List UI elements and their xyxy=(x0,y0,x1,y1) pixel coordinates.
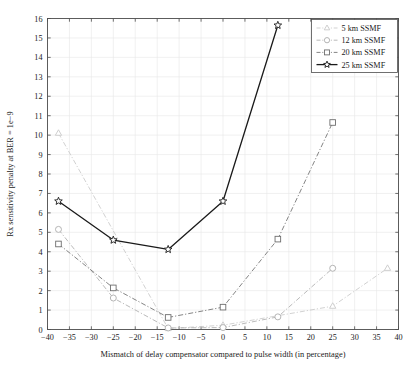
series-12-km-ssmf xyxy=(55,226,335,331)
data-point-marker-square xyxy=(220,304,226,310)
data-point-marker-circle xyxy=(275,314,281,320)
series-20-km-ssmf xyxy=(56,120,336,321)
x-tick-label: −30 xyxy=(85,333,98,342)
y-tick-label: 15 xyxy=(34,34,42,43)
chart-figure: −40−35−30−25−20−15−10−50510152025303540 … xyxy=(0,0,418,378)
x-tick-label: 35 xyxy=(372,333,380,342)
data-point-marker-square xyxy=(330,120,336,126)
chart-legend: 5 km SSMF12 km SSMF20 km SSMF25 km SSMF xyxy=(312,20,398,73)
legend-label: 25 km SSMF xyxy=(342,61,386,70)
data-point-marker-star xyxy=(110,236,118,243)
legend-label: 20 km SSMF xyxy=(342,48,386,57)
axis-titles: Mismatch of delay compensator compared t… xyxy=(6,111,346,359)
legend-label: 5 km SSMF xyxy=(342,24,382,33)
data-point-marker-circle xyxy=(220,325,226,331)
data-point-marker-circle xyxy=(330,265,336,271)
legend-label: 12 km SSMF xyxy=(342,36,386,45)
x-tick-label: 40 xyxy=(394,333,402,342)
x-axis-title: Mismatch of delay compensator compared t… xyxy=(101,350,346,359)
x-tick-labels: −40−35−30−25−20−15−10−50510152025303540 xyxy=(41,333,403,342)
data-point-marker-circle xyxy=(165,325,171,331)
series-25-km-ssmf xyxy=(55,21,282,252)
data-point-marker-triangle xyxy=(330,303,336,309)
x-tick-label: 5 xyxy=(243,333,247,342)
y-tick-label: 13 xyxy=(34,73,42,82)
x-tick-label: 30 xyxy=(351,333,359,342)
data-point-marker-star xyxy=(274,21,282,28)
x-tick-label: −5 xyxy=(197,333,206,342)
y-tick-label: 14 xyxy=(34,53,42,62)
x-tick-label: −15 xyxy=(151,333,164,342)
x-tick-label: −40 xyxy=(41,333,54,342)
x-tick-label: 15 xyxy=(285,333,293,342)
x-tick-label: −20 xyxy=(129,333,142,342)
x-tick-label: −10 xyxy=(173,333,186,342)
data-point-marker-square xyxy=(56,241,62,247)
y-tick-label: 4 xyxy=(38,248,42,257)
y-tick-label: 11 xyxy=(35,112,43,121)
data-point-marker-circle xyxy=(110,295,116,301)
y-tick-label: 16 xyxy=(34,15,42,24)
series-line xyxy=(58,122,332,317)
y-tick-label: 8 xyxy=(38,170,42,179)
y-tick-labels: 012345678910111213141516 xyxy=(34,15,42,335)
x-tick-label: 25 xyxy=(329,333,337,342)
data-point-marker-circle xyxy=(324,38,329,43)
y-tick-label: 3 xyxy=(38,267,42,276)
y-tick-label: 12 xyxy=(34,92,42,101)
y-tick-label: 2 xyxy=(38,287,42,296)
data-point-marker-square xyxy=(275,236,281,242)
y-axis-title: Rx sensitivity penalty at BER = 1e−9 xyxy=(6,111,15,236)
data-point-marker-triangle xyxy=(384,265,390,271)
y-tick-label: 7 xyxy=(38,189,42,198)
x-tick-label: −25 xyxy=(107,333,120,342)
y-tick-label: 1 xyxy=(38,306,42,315)
data-point-marker-square xyxy=(165,315,171,321)
y-tick-label: 5 xyxy=(38,228,42,237)
data-point-marker-circle xyxy=(55,226,61,232)
x-tick-label: 0 xyxy=(221,333,225,342)
data-point-marker-square xyxy=(325,50,330,55)
x-tick-label: 10 xyxy=(263,333,271,342)
y-tick-label: 0 xyxy=(38,326,42,335)
y-tick-label: 9 xyxy=(38,151,42,160)
x-tick-label: −35 xyxy=(63,333,76,342)
chart-canvas: −40−35−30−25−20−15−10−50510152025303540 … xyxy=(0,0,418,378)
y-tick-label: 6 xyxy=(38,209,42,218)
y-tick-label: 10 xyxy=(34,131,42,140)
data-point-marker-triangle xyxy=(55,130,61,136)
data-point-marker-square xyxy=(111,285,117,291)
x-tick-label: 20 xyxy=(307,333,315,342)
